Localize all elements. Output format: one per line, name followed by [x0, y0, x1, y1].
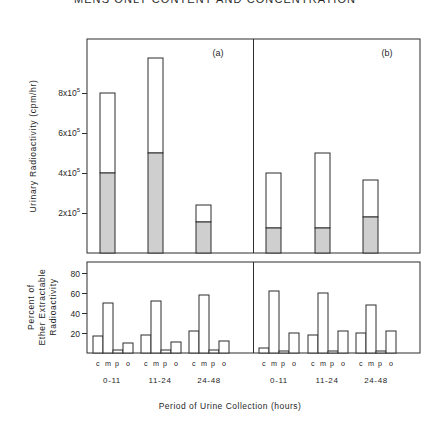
bar-stack-a-0-11	[100, 93, 115, 253]
top-panel-b-bars	[266, 153, 378, 253]
top-axis-ticks	[82, 94, 87, 214]
svg-text:2x105: 2x105	[58, 207, 80, 218]
chart-svg: 8x105 6x105 4x105 2x105 Urinary Radioact…	[0, 0, 430, 422]
cat-label-a-11-24-m: m	[153, 359, 159, 368]
svg-text:4x105: 4x105	[58, 167, 80, 178]
bottom-y-title-line-3: Radioactivity	[48, 278, 58, 335]
cat-label-b-0-11-c: c	[262, 359, 266, 368]
bar-group-a-0-11	[93, 303, 133, 353]
bottom-panel-b-bars	[259, 291, 396, 353]
cat-label-a-11-24-o: o	[174, 359, 178, 368]
cat-label-b-24-48-m: m	[368, 359, 374, 368]
bar-stack-b-11-24	[315, 153, 330, 253]
top-tick-label-4: 4x10	[58, 168, 77, 178]
top-tick-label-8: 8x10	[58, 88, 77, 98]
cat-label-b-11-24-c: c	[311, 359, 315, 368]
bar-stack-a-24-48	[196, 205, 211, 253]
category-labels-a: c m p o c m p o c m p o	[96, 359, 226, 368]
cat-label-b-24-48-p: p	[378, 359, 382, 368]
cat-label-b-24-48-c: c	[359, 359, 363, 368]
top-tick-exp-4: 5	[77, 167, 81, 173]
cat-label-a-24-48-c: c	[192, 359, 196, 368]
cat-label-b-11-24-m: m	[320, 359, 326, 368]
panel-b-label: (b)	[382, 48, 393, 58]
period-label-b-0-11: 0-11	[270, 376, 288, 385]
bottom-y-axis-title: Percent of Ether Extractable Radioactivi…	[26, 268, 58, 345]
bottom-tick-label-60: 60	[71, 289, 81, 299]
top-panel-a-bars	[100, 58, 211, 253]
bottom-tick-label-40: 40	[71, 309, 81, 319]
bar-group-a-24-48	[189, 295, 229, 353]
svg-text:8x105: 8x105	[58, 87, 80, 98]
bar-stack-b-24-48	[363, 180, 378, 253]
top-tick-exp-8: 5	[77, 87, 81, 93]
bottom-tick-label-80: 80	[71, 269, 81, 279]
panel-a-label: (a)	[213, 48, 224, 58]
period-label-b-11-24: 11-24	[316, 376, 339, 385]
bottom-tick-label-20: 20	[71, 329, 81, 339]
period-label-a-11-24: 11-24	[149, 376, 172, 385]
cat-label-b-0-11-m: m	[271, 359, 277, 368]
bar-group-a-11-24	[141, 301, 181, 353]
top-tick-label-6: 6x10	[58, 128, 77, 138]
bar-stack-a-11-24	[148, 58, 163, 253]
cat-label-b-11-24-o: o	[341, 359, 345, 368]
page-running-header: MENS ONLY CONTENT AND CONCENTRATION	[0, 0, 430, 5]
bottom-y-title-line-2: Ether Extractable	[37, 268, 47, 345]
top-tick-exp-6: 5	[77, 127, 81, 133]
bottom-axis-tick-labels: 80 60 40 20	[71, 269, 81, 339]
top-axis-tick-labels: 8x105 6x105 4x105 2x105	[58, 87, 80, 218]
x-axis-title: Period of Urine Collection (hours)	[159, 401, 302, 411]
bar-group-b-0-11	[259, 291, 299, 353]
cat-label-a-11-24-p: p	[163, 359, 167, 368]
period-label-a-24-48: 24-48	[197, 376, 220, 385]
cat-label-a-0-11-m: m	[105, 359, 111, 368]
svg-text:6x105: 6x105	[58, 127, 80, 138]
figure-container: MENS ONLY CONTENT AND CONCENTRATION 8x10…	[0, 0, 430, 422]
cat-label-b-24-48-o: o	[389, 359, 393, 368]
cat-label-a-0-11-o: o	[126, 359, 130, 368]
category-labels-b: c m p o c m p o c m p o	[262, 359, 393, 368]
cat-label-a-0-11-c: c	[96, 359, 100, 368]
cat-label-b-0-11-p: p	[281, 359, 285, 368]
cat-label-a-11-24-c: c	[144, 359, 148, 368]
bottom-y-title-line-1: Percent of	[26, 284, 36, 330]
cat-label-b-11-24-p: p	[330, 359, 334, 368]
period-label-a-0-11: 0-11	[103, 376, 121, 385]
bottom-panel-a-bars	[93, 295, 229, 353]
bar-group-b-24-48	[356, 305, 396, 353]
top-y-axis-title: Urinary Radioactivity (cpm/hr)	[28, 80, 38, 213]
cat-label-a-24-48-p: p	[211, 359, 215, 368]
cat-label-a-0-11-p: p	[115, 359, 119, 368]
cat-label-b-0-11-o: o	[292, 359, 296, 368]
period-labels-a: 0-11 11-24 24-48	[103, 376, 221, 385]
top-tick-exp-2: 5	[77, 207, 81, 213]
cat-label-a-24-48-m: m	[201, 359, 207, 368]
cat-label-a-24-48-o: o	[222, 359, 226, 368]
bar-group-b-11-24	[308, 293, 348, 353]
top-tick-label-2: 2x10	[58, 208, 77, 218]
period-labels-b: 0-11 11-24 24-48	[270, 376, 388, 385]
bottom-axis-ticks	[82, 274, 87, 334]
period-label-b-24-48: 24-48	[364, 376, 387, 385]
bar-stack-b-0-11	[266, 173, 281, 253]
